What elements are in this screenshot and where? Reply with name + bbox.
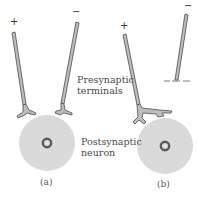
postsynaptic-label: Postsynaptic neuron [81,136,142,158]
positive-sign-b: + [120,21,128,31]
presynaptic-terminal-a-left [12,32,36,118]
presynaptic-label-line2: terminals [77,85,134,96]
postsynaptic-neuron-a [19,115,75,171]
postsynaptic-label-line2: neuron [81,147,142,158]
synapse-diagram: + − + − Presynaptic terminals Postsynapt… [0,0,198,197]
negative-sign-a: − [72,7,80,17]
recording-electrode-b [164,14,190,81]
presynaptic-terminal-a-right [55,22,79,115]
postsynaptic-neuron-b [137,118,193,174]
positive-sign-a: + [10,17,18,27]
postsynaptic-label-line1: Postsynaptic [81,136,142,147]
presynaptic-label: Presynaptic terminals [77,74,134,96]
panel-caption-a: (a) [40,177,52,187]
presynaptic-label-line1: Presynaptic [77,74,134,85]
panel-caption-b: (b) [157,179,170,189]
negative-sign-b: − [184,1,192,11]
